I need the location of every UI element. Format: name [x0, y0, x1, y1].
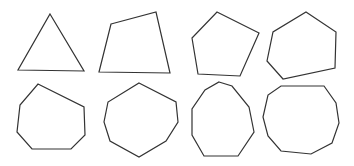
polygon-diagram: [0, 0, 354, 166]
background: [0, 0, 354, 166]
